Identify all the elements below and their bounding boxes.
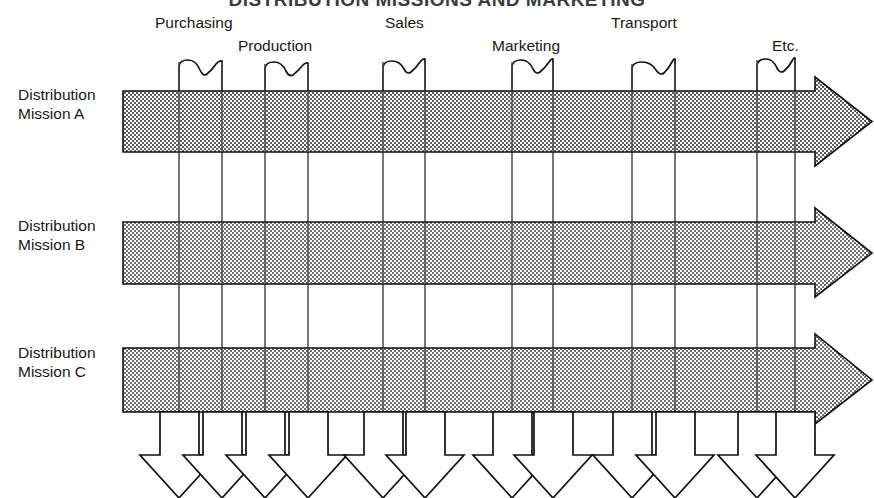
column-label-etc: Etc. bbox=[772, 37, 799, 54]
mission-band-a bbox=[123, 77, 872, 166]
column-braces bbox=[179, 58, 795, 91]
column-label-marketing: Marketing bbox=[492, 37, 560, 54]
brace-purchasing bbox=[179, 60, 222, 91]
diagram-title-text: DISTRIBUTION MISSIONS AND MARKETING bbox=[229, 0, 646, 10]
row-label-c-line2: Mission C bbox=[18, 363, 86, 380]
brace-production bbox=[265, 62, 308, 91]
row-labels: Distribution Mission A Distribution Miss… bbox=[18, 86, 96, 380]
brace-transport bbox=[632, 59, 675, 91]
row-label-c-line1: Distribution bbox=[18, 344, 96, 361]
brace-marketing bbox=[512, 59, 553, 91]
row-label-b-line1: Distribution bbox=[18, 217, 96, 234]
output-arrows bbox=[140, 412, 834, 498]
column-label-transport: Transport bbox=[611, 14, 677, 31]
mission-band-a-arrow bbox=[123, 77, 872, 166]
diagram-title: DISTRIBUTION MISSIONS AND MARKETING bbox=[229, 0, 646, 10]
column-label-sales: Sales bbox=[385, 14, 424, 31]
mission-band-c bbox=[123, 334, 872, 424]
row-label-a-line2: Mission A bbox=[18, 105, 85, 122]
distribution-mission-diagram: DISTRIBUTION MISSIONS AND MARKETING Purc… bbox=[0, 0, 874, 498]
diagram-canvas: DISTRIBUTION MISSIONS AND MARKETING Purc… bbox=[0, 0, 874, 498]
row-label-a-line1: Distribution bbox=[18, 86, 96, 103]
row-label-b-line2: Mission B bbox=[18, 236, 85, 253]
column-label-purchasing: Purchasing bbox=[155, 14, 233, 31]
brace-etc bbox=[757, 58, 795, 91]
mission-band-c-arrow bbox=[123, 334, 872, 424]
column-label-production: Production bbox=[238, 37, 312, 54]
column-headers: Purchasing Production Sales Marketing Tr… bbox=[155, 14, 799, 54]
mission-band-b bbox=[123, 208, 872, 297]
mission-band-b-arrow bbox=[123, 208, 872, 297]
brace-sales bbox=[383, 59, 425, 91]
